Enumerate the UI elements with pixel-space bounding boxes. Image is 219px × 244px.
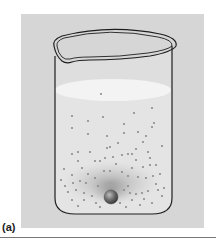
particle <box>95 202 97 204</box>
particle <box>109 170 111 172</box>
particle <box>143 198 145 200</box>
particle <box>147 190 149 192</box>
particle <box>159 173 161 175</box>
particle <box>112 156 114 158</box>
particle <box>71 115 73 117</box>
particle <box>151 107 153 109</box>
particle <box>91 195 93 197</box>
particle <box>155 183 157 185</box>
particle <box>141 192 143 194</box>
particle <box>106 147 108 149</box>
particle <box>71 127 73 129</box>
liquid-surface <box>55 79 171 101</box>
particle <box>97 185 99 187</box>
particle <box>135 148 137 150</box>
particle <box>149 157 151 159</box>
figure-label: (a) <box>2 221 15 233</box>
particle <box>75 189 77 191</box>
particle <box>94 160 96 162</box>
particle <box>121 154 123 156</box>
particle <box>123 189 125 191</box>
particle <box>123 132 125 134</box>
particle <box>133 112 135 114</box>
particle <box>77 151 79 153</box>
particle <box>127 175 129 177</box>
particle <box>129 192 131 194</box>
particle <box>87 133 89 135</box>
particle <box>142 166 144 168</box>
particle <box>83 192 85 194</box>
particle <box>77 160 79 162</box>
particle <box>87 173 89 175</box>
particle <box>131 153 133 155</box>
beaker-illustration <box>0 0 219 244</box>
particle <box>123 123 125 125</box>
particle <box>117 142 119 144</box>
particle <box>131 199 133 201</box>
particle <box>127 153 129 155</box>
particle <box>121 171 123 173</box>
particle <box>106 135 108 137</box>
particle <box>100 93 102 95</box>
particle <box>72 182 74 184</box>
particle <box>109 146 111 148</box>
particle <box>163 187 165 189</box>
particle <box>153 122 155 124</box>
particle <box>149 164 151 166</box>
particle <box>102 116 104 118</box>
particle <box>71 153 73 155</box>
particle <box>71 199 73 201</box>
particle <box>157 189 159 191</box>
particle <box>64 185 66 187</box>
divider-line <box>0 237 216 238</box>
particle <box>127 185 129 187</box>
particle <box>135 159 137 161</box>
particle <box>155 164 157 166</box>
particle <box>147 151 149 153</box>
particle <box>152 175 154 177</box>
particle <box>151 126 153 128</box>
particle <box>89 151 91 153</box>
particle <box>94 177 96 179</box>
particle <box>60 179 62 181</box>
particle <box>131 167 133 169</box>
particle <box>142 141 144 143</box>
particle <box>85 182 87 184</box>
particle <box>103 170 105 172</box>
solid-sphere <box>104 190 118 204</box>
particle <box>71 174 73 176</box>
particle <box>139 204 141 206</box>
particle <box>145 177 147 179</box>
particle <box>99 206 101 208</box>
particle <box>83 199 85 201</box>
particle <box>79 180 81 182</box>
particle <box>137 176 139 178</box>
particle <box>67 191 69 193</box>
particle <box>161 195 163 197</box>
particle <box>104 157 106 159</box>
particle <box>137 131 139 133</box>
particle <box>81 167 83 169</box>
particle <box>135 193 137 195</box>
particle <box>77 205 79 207</box>
particle <box>99 160 101 162</box>
particle <box>63 168 65 170</box>
particle <box>119 202 121 204</box>
particle <box>145 135 147 137</box>
particle <box>87 120 89 122</box>
particle <box>151 202 153 204</box>
particle <box>125 206 127 208</box>
particle <box>115 163 117 165</box>
particle <box>161 145 163 147</box>
